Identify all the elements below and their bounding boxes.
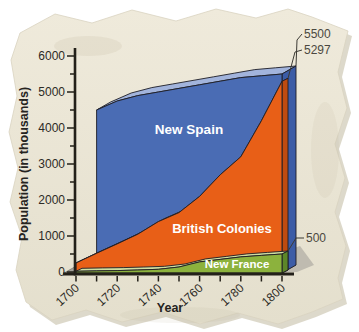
y-tick-label: 5000: [38, 85, 65, 99]
y-tick-label: 6000: [38, 49, 65, 63]
y-axis-title: Population (in thousands): [17, 87, 31, 241]
y-tick-label: 4000: [38, 121, 65, 135]
y-tick-label: 1000: [38, 229, 65, 243]
area-label-new-spain: New Spain: [155, 122, 223, 137]
callout-british-colonies-value: 5297: [304, 43, 331, 57]
area-new-france-side: [282, 251, 288, 273]
area-british-colonies-side: [282, 78, 288, 273]
torn-paper-chart: 0100020003000400050006000170017201740176…: [0, 0, 359, 332]
y-tick-label: 2000: [38, 193, 65, 207]
callout-new-spain-value: 5500: [304, 27, 331, 41]
callout-new-france-value: 500: [306, 231, 326, 245]
population-chart: 0100020003000400050006000170017201740176…: [0, 0, 359, 332]
y-tick-label: 0: [58, 265, 65, 279]
area-label-new-france: New France: [205, 258, 270, 270]
x-axis-title: Year: [157, 301, 184, 315]
area-label-british-colonies: British Colonies: [172, 221, 272, 236]
paper-stain: [311, 102, 339, 198]
y-tick-label: 3000: [38, 157, 65, 171]
